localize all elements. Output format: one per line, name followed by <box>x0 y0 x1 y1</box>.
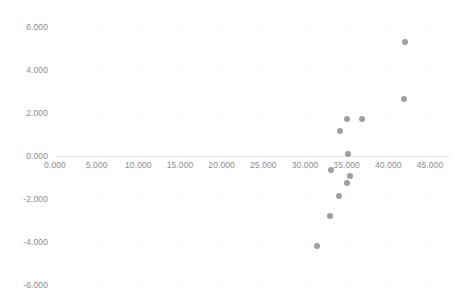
gridline-vertical <box>138 27 139 285</box>
gridline-horizontal <box>55 285 450 286</box>
gridline-horizontal <box>55 27 450 28</box>
gridline-horizontal <box>55 70 450 71</box>
data-point[interactable] <box>347 173 353 179</box>
y-axis-tick: 6.000 <box>0 22 48 32</box>
plot-area: 6.0004.0002.0000.000-2.000-4.000-6.000 0… <box>0 0 465 301</box>
data-point[interactable] <box>336 193 342 199</box>
y-axis-tick-label: 2.000 <box>6 108 48 118</box>
gridline-vertical <box>222 27 223 285</box>
gridline-vertical <box>97 27 98 285</box>
data-point[interactable] <box>344 180 350 186</box>
data-point[interactable] <box>401 96 407 102</box>
y-axis-tick: 2.000 <box>0 108 48 118</box>
data-point[interactable] <box>344 116 350 122</box>
gridline-horizontal <box>55 199 450 200</box>
y-axis-tick-label: -6.000 <box>6 280 48 290</box>
gridline-vertical <box>388 27 389 285</box>
y-axis-tick: 4.000 <box>0 65 48 75</box>
y-axis-tick-label: 4.000 <box>6 65 48 75</box>
scatter-chart: 6.0004.0002.0000.000-2.000-4.000-6.000 0… <box>0 0 465 301</box>
data-point[interactable] <box>359 116 365 122</box>
y-axis-tick: -6.000 <box>0 280 48 290</box>
gridline-vertical <box>305 27 306 285</box>
gridline-vertical <box>263 27 264 285</box>
data-point[interactable] <box>327 213 333 219</box>
x-axis-tick: 45.000 <box>400 160 460 171</box>
y-axis-tick-label: -4.000 <box>6 237 48 247</box>
y-axis-tick: -2.000 <box>0 194 48 204</box>
gridline-vertical <box>430 27 431 285</box>
data-point[interactable] <box>314 243 320 249</box>
data-point[interactable] <box>328 167 334 173</box>
gridline-horizontal <box>55 242 450 243</box>
y-axis-tick-label: -2.000 <box>6 194 48 204</box>
x-axis-tick-label: 45.000 <box>400 160 460 171</box>
data-point[interactable] <box>337 128 343 134</box>
gridline-horizontal <box>55 113 450 114</box>
data-point[interactable] <box>402 39 408 45</box>
y-axis-tick: -4.000 <box>0 237 48 247</box>
y-axis-tick-label: 6.000 <box>6 22 48 32</box>
x-axis-line <box>55 156 450 157</box>
gridline-vertical <box>55 27 56 285</box>
gridline-vertical <box>180 27 181 285</box>
